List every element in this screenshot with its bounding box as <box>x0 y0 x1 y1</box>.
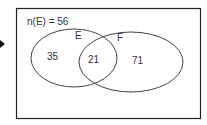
set-e-only-value: 35 <box>47 52 58 62</box>
set-f-label: F <box>117 33 123 43</box>
intersection-value: 21 <box>88 55 99 65</box>
arrow-icon <box>0 40 5 48</box>
set-f-only-value: 71 <box>132 56 143 66</box>
set-e-ellipse <box>31 29 117 87</box>
set-e-label: E <box>75 31 82 41</box>
universe-label: n(E) = 56 <box>27 17 68 27</box>
